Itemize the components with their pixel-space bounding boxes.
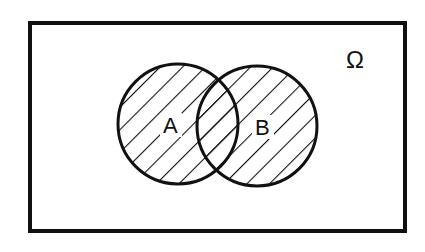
universe-label: Ω: [346, 48, 364, 72]
set-a-label: A: [163, 115, 178, 137]
venn-diagram: [0, 0, 425, 252]
set-b-label: B: [255, 117, 270, 139]
